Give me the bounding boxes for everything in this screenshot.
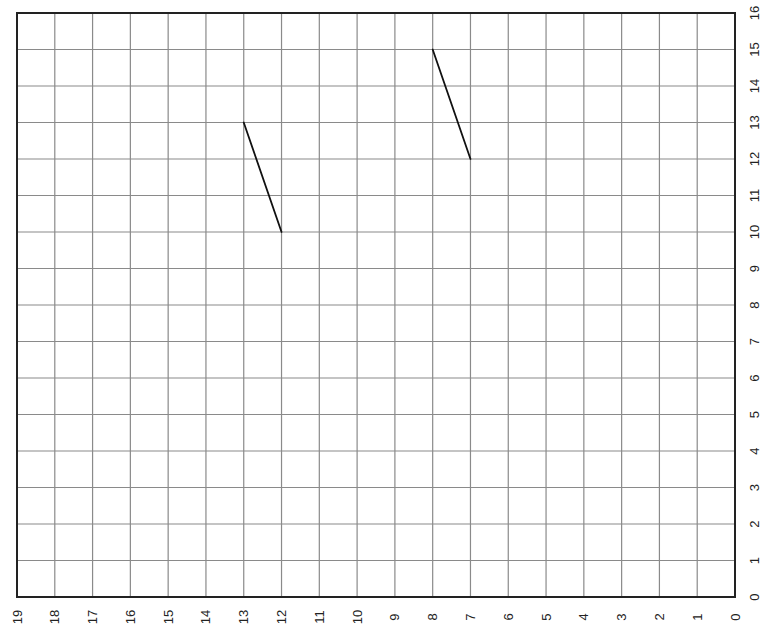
x-tick-label: 6	[501, 613, 516, 620]
y-tick-label: 13	[747, 115, 762, 129]
x-tick-label: 3	[614, 613, 629, 620]
x-tick-label: 2	[652, 613, 667, 620]
grid-lines	[17, 13, 735, 597]
x-tick-label: 8	[425, 613, 440, 620]
y-tick-label: 7	[747, 338, 762, 345]
y-tick-label: 2	[747, 520, 762, 527]
x-tick-label: 1	[690, 613, 705, 620]
x-tick-label: 9	[387, 613, 402, 620]
y-tick-label: 5	[747, 411, 762, 418]
x-axis-tick-labels: 012345678910111213141516171819	[10, 610, 743, 624]
y-tick-label: 1	[747, 557, 762, 564]
x-tick-label: 16	[123, 610, 138, 624]
x-tick-label: 17	[85, 610, 100, 624]
y-axis-tick-labels: 012345678910111213141516	[747, 6, 762, 601]
y-tick-label: 8	[747, 301, 762, 308]
x-tick-label: 15	[161, 610, 176, 624]
x-tick-label: 12	[274, 610, 289, 624]
y-tick-label: 15	[747, 42, 762, 56]
y-tick-label: 10	[747, 225, 762, 239]
chart-canvas: 012345678910111213141516171819 012345678…	[0, 0, 769, 632]
line-segment-2	[433, 50, 471, 160]
y-tick-label: 14	[747, 79, 762, 93]
x-tick-label: 18	[47, 610, 62, 624]
y-tick-label: 3	[747, 484, 762, 491]
x-tick-label: 7	[463, 613, 478, 620]
y-tick-label: 0	[747, 593, 762, 600]
x-tick-label: 19	[10, 610, 25, 624]
y-tick-label: 11	[747, 189, 762, 203]
y-tick-label: 16	[747, 6, 762, 20]
y-tick-label: 12	[747, 152, 762, 166]
y-tick-label: 6	[747, 374, 762, 381]
line-segment-1	[244, 123, 282, 233]
y-tick-label: 4	[747, 447, 762, 454]
y-tick-label: 9	[747, 265, 762, 272]
chart: 012345678910111213141516171819 012345678…	[0, 0, 769, 632]
x-tick-label: 13	[236, 610, 251, 624]
x-tick-label: 5	[539, 613, 554, 620]
x-tick-label: 11	[312, 610, 327, 624]
x-tick-label: 4	[576, 613, 591, 620]
x-tick-label: 0	[728, 613, 743, 620]
x-tick-label: 14	[198, 610, 213, 624]
x-tick-label: 10	[350, 610, 365, 624]
